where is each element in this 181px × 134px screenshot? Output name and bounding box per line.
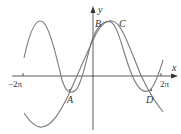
- point-a-marker: [69, 89, 71, 91]
- x-axis: [12, 73, 178, 79]
- tick-label-pos-2pi: 2π: [160, 80, 169, 89]
- point-b-label: B: [95, 19, 101, 29]
- point-d-label: D: [146, 95, 153, 105]
- y-axis-arrow-icon: [91, 6, 96, 13]
- x-axis-arrow-icon: [171, 74, 178, 79]
- tick-label-neg-2pi: −2π: [8, 80, 22, 89]
- graph-figure: [0, 0, 181, 134]
- x-axis-label: x: [172, 63, 176, 73]
- point-a-label: A: [67, 95, 73, 105]
- curve-1: [24, 21, 163, 92]
- y-axis-label: y: [98, 5, 102, 15]
- point-c-label: C: [119, 19, 126, 29]
- point-d-marker: [150, 89, 152, 91]
